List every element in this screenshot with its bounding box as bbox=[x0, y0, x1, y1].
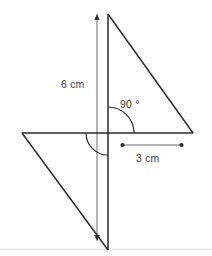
vertical-measure-group bbox=[94, 14, 99, 242]
vertical-measurement-label: 6 cm bbox=[61, 79, 85, 90]
upper-triangle-hypotenuse bbox=[108, 14, 193, 133]
geometry-diagram bbox=[0, 0, 212, 256]
measure-endpoint-right-dot-icon bbox=[179, 143, 183, 147]
measure-endpoint-left-dot-icon bbox=[120, 143, 124, 147]
horizontal-measurement-label: 3 cm bbox=[136, 153, 160, 164]
ninety-degree-arc bbox=[108, 107, 134, 133]
geometry-figure-canvas: 6 cm 90 ° 3 cm bbox=[0, 0, 212, 256]
horizontal-measure-group bbox=[120, 143, 183, 147]
angle-measurement-label: 90 ° bbox=[120, 99, 140, 110]
vertical-measure-arrow-top-icon bbox=[94, 14, 99, 21]
